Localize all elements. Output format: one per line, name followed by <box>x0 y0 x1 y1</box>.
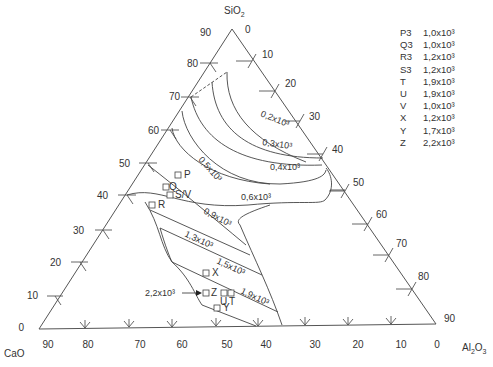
point-Z1 <box>203 290 209 296</box>
legend-row: P31,0x10³ <box>400 27 455 39</box>
svg-text:20: 20 <box>50 257 62 268</box>
svg-text:50: 50 <box>353 177 365 188</box>
svg-text:90: 90 <box>42 339 54 350</box>
left-tick-labels: 10 20 30 40 50 60 70 80 90 0 <box>18 27 211 333</box>
point-label-SV: S/V <box>175 189 191 200</box>
axis-title-al2o3: Al2O3 <box>462 342 487 355</box>
svg-text:10: 10 <box>395 339 407 350</box>
point-Y <box>214 305 220 311</box>
svg-text:90: 90 <box>444 313 456 324</box>
svg-text:10: 10 <box>27 290 39 301</box>
contour-label: 0,3x10³ <box>262 137 293 151</box>
svg-text:50: 50 <box>221 339 233 350</box>
svg-text:30: 30 <box>309 111 321 122</box>
axis-title-sio2: SiO2 <box>224 5 245 18</box>
point-label-P: P <box>184 169 191 180</box>
contour-label: 0,9x10³ <box>202 206 233 229</box>
svg-text:70: 70 <box>134 339 146 350</box>
legend-row: T1,9x10³ <box>400 76 455 88</box>
legend-row: Q31,0x10³ <box>400 39 455 51</box>
svg-text:70: 70 <box>169 91 181 102</box>
svg-text:30: 30 <box>309 339 321 350</box>
svg-text:60: 60 <box>376 209 388 220</box>
annotation-label: 2,2x10³ <box>145 288 175 298</box>
svg-text:50: 50 <box>119 158 131 169</box>
point-X <box>203 270 209 276</box>
legend-row: V1,0x10³ <box>400 100 455 112</box>
right-boundary <box>238 205 282 325</box>
svg-text:90: 90 <box>200 27 212 38</box>
legend-row: Y1,7x10³ <box>400 125 455 137</box>
contour-label: 1,9x10³ <box>239 286 270 308</box>
contour-label: 0,4x10³ <box>270 162 300 172</box>
svg-text:20: 20 <box>285 78 297 89</box>
svg-text:80: 80 <box>82 339 94 350</box>
legend: P31,0x10³ Q31,0x10³ R31,2x10³ S31,2x10³ … <box>400 27 455 149</box>
svg-text:80: 80 <box>418 271 430 282</box>
svg-text:10: 10 <box>262 49 274 60</box>
right-edge-ticks <box>236 54 416 296</box>
legend-row: Z2,2x10³ <box>400 137 455 149</box>
svg-text:0: 0 <box>18 322 24 333</box>
point-label-X: X <box>212 267 219 278</box>
contour-label: 0,6x10³ <box>241 192 271 202</box>
point-P <box>175 172 181 178</box>
contour-label: 0,2x10³ <box>259 109 291 130</box>
svg-text:60: 60 <box>148 125 160 136</box>
point-label-T: T <box>229 296 235 307</box>
axis-title-cao: CaO <box>4 348 25 359</box>
svg-text:20: 20 <box>352 339 364 350</box>
svg-text:40: 40 <box>260 339 272 350</box>
contour-0.5-upper <box>182 111 326 184</box>
point-R <box>149 202 155 208</box>
legend-row: R31,2x10³ <box>400 51 455 63</box>
point-label-R: R <box>158 199 165 210</box>
legend-row: U1,9x10³ <box>400 88 455 100</box>
point-label-Y: Y <box>223 302 230 313</box>
svg-text:60: 60 <box>176 339 188 350</box>
svg-text:0: 0 <box>434 339 440 350</box>
svg-text:0: 0 <box>245 24 251 35</box>
svg-text:80: 80 <box>187 58 199 69</box>
svg-text:40: 40 <box>97 190 109 201</box>
contour-label: 1,5x10³ <box>215 256 246 278</box>
point-label-Z: Z <box>211 287 217 298</box>
ternary-diagram: 0,2x10³ 0,3x10³ 0,4x10³ 0,5x10³ 0,6x10³ … <box>0 0 493 367</box>
svg-text:40: 40 <box>332 144 344 155</box>
bottom-tick-labels: 90 80 70 60 50 40 30 20 10 0 <box>42 339 440 350</box>
legend-row: S31,2x10³ <box>400 64 455 76</box>
svg-text:30: 30 <box>73 225 85 236</box>
point-SV <box>167 192 173 198</box>
svg-text:70: 70 <box>396 238 408 249</box>
legend-row: X1,2x10³ <box>400 112 455 124</box>
